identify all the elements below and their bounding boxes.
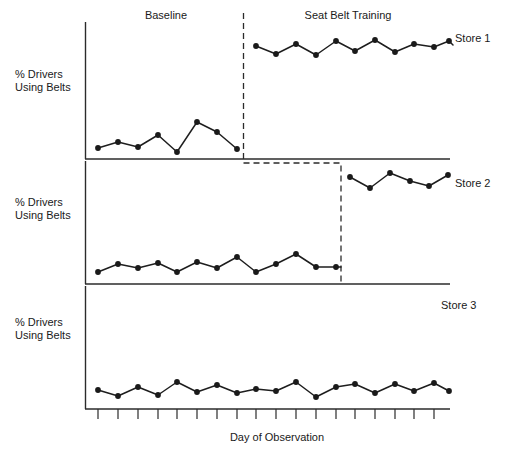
panel-2-treatment-points: [347, 170, 451, 191]
panel-store-2: [85, 161, 451, 284]
chart-canvas: Baseline Seat Belt Training Store 1 Stor…: [0, 0, 506, 454]
panel-label-store-1: Store 1: [455, 32, 490, 44]
panel-label-store-2: Store 2: [455, 177, 490, 189]
y-axis-label-panel-3-line-1: % Drivers: [15, 316, 63, 328]
panel-1-baseline-points: [95, 119, 240, 155]
x-axis-label: Day of Observation: [230, 431, 324, 443]
y-axis-label-panel-2-line-1: % Drivers: [15, 196, 63, 208]
y-axis-label-panel-1-line-2: Using Belts: [15, 81, 71, 93]
panel-store-3: [85, 286, 452, 419]
panel-store-1: [85, 13, 453, 159]
panel-1-baseline-series-line: [98, 122, 237, 152]
panel-label-store-3: Store 3: [441, 299, 476, 311]
panel-3-points: [95, 379, 452, 400]
phase-label-training: Seat Belt Training: [305, 9, 392, 21]
panel-1-treatment-points: [253, 37, 452, 58]
panel-2-baseline-points: [95, 251, 339, 275]
y-axis-label-panel-1-line-1: % Drivers: [15, 68, 63, 80]
multiple-baseline-figure: Baseline Seat Belt Training Store 1 Stor…: [0, 0, 506, 454]
phase-label-baseline: Baseline: [145, 9, 187, 21]
panel-2-treatment-series-line: [350, 173, 448, 188]
y-axis-label-panel-2-line-2: Using Belts: [15, 209, 71, 221]
x-axis-ticks: [98, 409, 434, 419]
y-axis-label-panel-3-line-2: Using Belts: [15, 329, 71, 341]
panel-2-phase-change-step: [244, 163, 342, 284]
